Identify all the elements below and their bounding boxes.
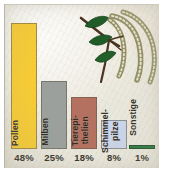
value-label-tierepithelien: 18% bbox=[71, 152, 97, 163]
bar-label-pollen: Pollen bbox=[11, 120, 37, 146]
bar-sonstige bbox=[129, 145, 155, 149]
bar-label-milben: Milben bbox=[41, 118, 67, 146]
value-label-sonstige: 1% bbox=[129, 152, 155, 163]
value-label-milben: 25% bbox=[41, 152, 67, 163]
pollen-allergy-bar-chart-figure: Pollen Milben Tierepi- thelien Schimmel-… bbox=[0, 0, 169, 173]
value-label-schimmelpilze: 8% bbox=[101, 152, 127, 163]
plot-area: Pollen Milben Tierepi- thelien Schimmel-… bbox=[9, 11, 156, 149]
chart-panel: Pollen Milben Tierepi- thelien Schimmel-… bbox=[4, 4, 159, 168]
bar-label-sonstige: Sonstige bbox=[129, 99, 155, 136]
value-label-pollen: 48% bbox=[11, 152, 37, 163]
bar-label-tierepithelien: Tierepi- thelien bbox=[71, 115, 97, 146]
value-label-row: 48% 25% 18% 8% 1% bbox=[9, 152, 156, 166]
bar-label-schimmelpilze: Schimmel- pilze bbox=[101, 109, 127, 153]
